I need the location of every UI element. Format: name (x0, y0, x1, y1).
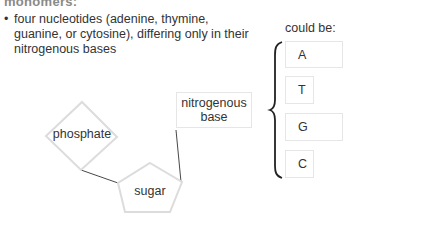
base-label: A (298, 48, 306, 62)
base-option-a: A (285, 41, 343, 68)
nitrogenous-base-label-line2: base (177, 110, 251, 124)
curly-brace-icon (270, 42, 282, 178)
sugar-label: sugar (125, 184, 175, 198)
nitrogenous-base-box: nitrogenous base (176, 92, 252, 128)
base-label: T (298, 83, 306, 97)
nitrogenous-base-label-line1: nitrogenous (177, 96, 251, 110)
base-label: G (298, 120, 308, 134)
base-label: C (298, 157, 307, 171)
phosphate-label: phosphate (50, 127, 114, 141)
could-be-caption: could be: (285, 21, 336, 35)
sugar-base-connector (176, 130, 181, 182)
base-option-c: C (285, 150, 314, 178)
base-option-t: T (285, 76, 314, 104)
phosphate-sugar-connector (81, 170, 118, 183)
base-option-g: G (285, 113, 343, 141)
